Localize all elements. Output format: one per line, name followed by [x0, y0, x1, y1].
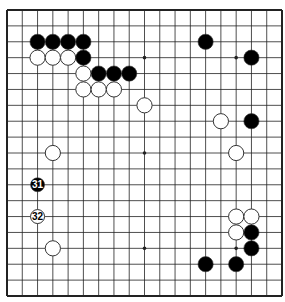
white-stone: [45, 241, 60, 256]
white-stone: [244, 209, 259, 224]
white-stone: [45, 50, 60, 65]
black-stone: [198, 257, 213, 272]
black-stone: [76, 34, 91, 49]
white-stone: [106, 82, 121, 97]
white-stone: [45, 145, 60, 160]
white-stone: 32: [31, 210, 45, 224]
move-number: 32: [32, 211, 44, 222]
black-stone: [122, 66, 137, 81]
black-stone: [30, 34, 45, 49]
white-stone: [76, 82, 91, 97]
black-stone: [61, 34, 76, 49]
white-stone: [229, 225, 244, 240]
white-stone: [91, 82, 106, 97]
black-stone: [45, 34, 60, 49]
white-stone: [61, 50, 76, 65]
star-point: [143, 151, 147, 155]
black-stone: 31: [31, 178, 45, 192]
star-point: [234, 56, 238, 60]
white-stone: [229, 145, 244, 160]
star-point: [143, 56, 147, 60]
move-number: 31: [32, 179, 44, 190]
white-stone: [30, 50, 45, 65]
black-stone: [76, 50, 91, 65]
white-stone: [137, 98, 152, 113]
star-point: [143, 247, 147, 251]
white-stone: [213, 114, 228, 129]
white-stone: [76, 66, 91, 81]
black-stone: [244, 225, 259, 240]
black-stone: [244, 50, 259, 65]
black-stone: [198, 34, 213, 49]
black-stone: [106, 66, 121, 81]
black-stone: [244, 241, 259, 256]
black-stone: [244, 114, 259, 129]
black-stone: [229, 257, 244, 272]
white-stone: [229, 209, 244, 224]
go-board: 3132: [0, 0, 285, 302]
star-point: [234, 247, 238, 251]
black-stone: [91, 66, 106, 81]
